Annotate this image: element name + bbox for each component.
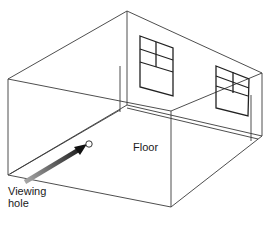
viewing-hole-label-line1: Viewing — [8, 185, 46, 197]
window-left — [140, 36, 173, 96]
viewing-arrow — [25, 144, 87, 182]
viewing-hole-label-line2: hole — [8, 197, 29, 209]
ames-room-diagram: Floor Viewing hole — [0, 0, 266, 229]
room-outline — [8, 11, 262, 207]
window-right — [216, 66, 249, 116]
viewing-hole-icon — [86, 141, 92, 147]
floor-label: Floor — [133, 141, 158, 153]
